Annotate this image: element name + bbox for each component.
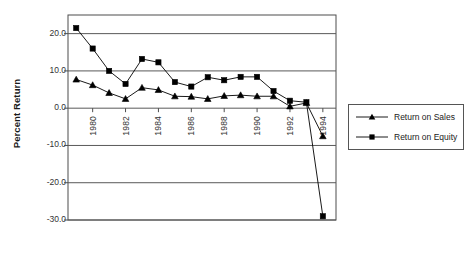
data-point-0-0: [73, 76, 80, 82]
data-point-1-3: [123, 81, 128, 86]
series-line-1: [76, 28, 323, 216]
chart-container: Percent Return 20.010.00.0-10.0-20.0-30.…: [0, 0, 472, 261]
plot-frame: [68, 15, 336, 220]
series-return-on-sales: [73, 76, 326, 139]
data-point-1-7: [189, 84, 194, 89]
data-point-1-11: [254, 74, 259, 79]
data-point-1-6: [172, 79, 177, 84]
data-point-0-2: [106, 90, 113, 96]
data-point-1-8: [205, 75, 210, 80]
data-point-1-9: [222, 78, 227, 83]
data-point-1-14: [304, 100, 309, 105]
data-point-0-3: [122, 96, 129, 102]
data-point-1-15: [320, 214, 325, 219]
data-point-1-12: [271, 88, 276, 93]
legend-marker-1: [369, 134, 374, 139]
data-point-0-10: [237, 92, 244, 98]
data-point-0-4: [139, 84, 146, 90]
data-point-1-0: [74, 25, 79, 30]
legend-label-0: Return on Sales: [394, 112, 455, 122]
chart-legend: Return on SalesReturn on Equity: [348, 104, 464, 150]
data-point-1-10: [238, 74, 243, 79]
data-point-0-15: [320, 133, 327, 139]
series-return-on-equity: [74, 25, 326, 218]
data-point-1-1: [90, 46, 95, 51]
legend-item-1[interactable]: Return on Equity: [349, 127, 463, 147]
data-point-1-13: [287, 98, 292, 103]
triangle-marker-icon: [355, 111, 389, 123]
data-point-1-2: [107, 68, 112, 73]
square-marker-icon: [355, 131, 389, 143]
data-point-1-4: [139, 56, 144, 61]
legend-item-0[interactable]: Return on Sales: [349, 107, 463, 127]
legend-label-1: Return on Equity: [394, 132, 457, 142]
data-point-1-5: [156, 60, 161, 65]
